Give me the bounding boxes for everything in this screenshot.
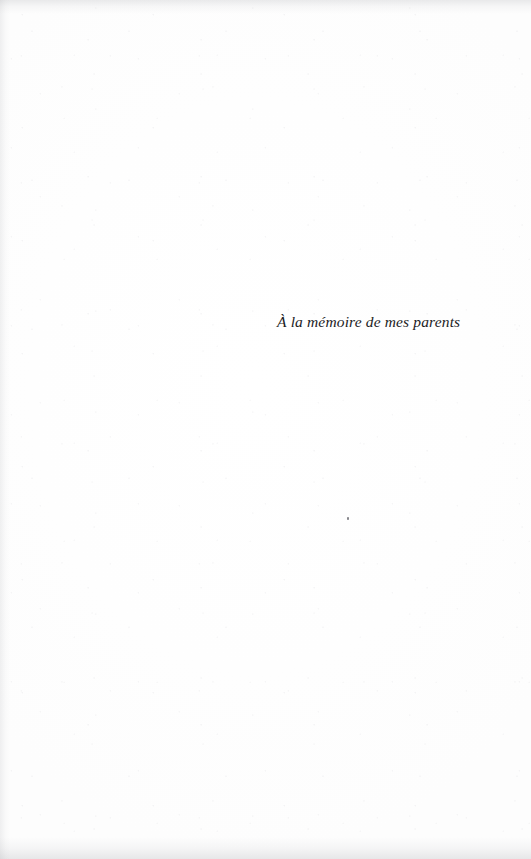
paper-background [0, 0, 531, 859]
scan-edge-smudge-bottom [0, 837, 531, 859]
dedication-text: À la mémoire de mes parents [277, 312, 460, 331]
scan-edge-smudge-top [0, 0, 531, 14]
scan-edge-smudge-left [0, 0, 10, 859]
scan-speckle-texture [0, 0, 531, 859]
dust-speck [347, 517, 349, 520]
dedication-page: À la mémoire de mes parents [0, 0, 531, 859]
